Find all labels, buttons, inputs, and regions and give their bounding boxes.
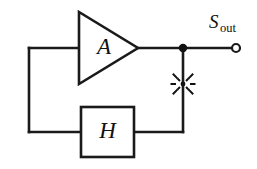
noise-burst-stub-ne [186, 78, 189, 81]
junction-dot-icon [179, 44, 187, 52]
noise-burst-core [181, 82, 186, 87]
noise-burst-stub-sw [177, 87, 180, 90]
output-signal-label: S [209, 11, 219, 32]
noise-burst-ray-nw [173, 74, 178, 79]
open-terminal-icon[interactable] [232, 44, 240, 52]
block-diagram-svg: A H S out [0, 0, 257, 169]
feedback-label: H [98, 118, 117, 143]
noise-burst-ray-se [188, 89, 193, 94]
noise-burst-ray-sw [173, 89, 178, 94]
amplifier-label: A [95, 34, 112, 59]
noise-burst-ray-ne [188, 74, 193, 79]
block-diagram-canvas: A H S out [0, 0, 257, 169]
noise-burst-stub-nw [177, 78, 180, 81]
output-signal-subscript: out [220, 21, 237, 35]
noise-burst-stub-se [186, 87, 189, 90]
